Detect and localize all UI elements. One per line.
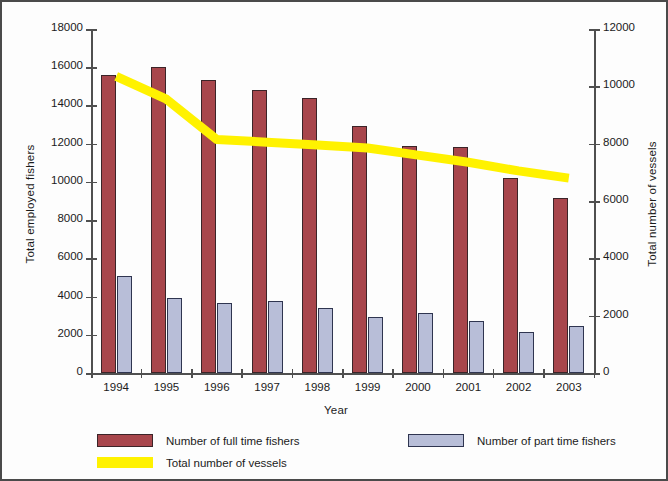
x-axis-line (91, 373, 596, 375)
part-time-swatch (408, 434, 464, 447)
y-axis-left-tick-label: 14000 (15, 97, 83, 109)
y-axis-right-tick-label: 12000 (603, 21, 663, 33)
bar-part-time (569, 326, 584, 373)
x-axis-tick (342, 369, 344, 378)
y-axis-left-tick (86, 29, 97, 31)
x-axis-tick (594, 369, 596, 378)
bar-full-time (252, 90, 267, 373)
plot-area: Total employed fishers Total number of v… (2, 2, 668, 481)
y-axis-right-tick-label: 6000 (603, 193, 663, 205)
y-axis-left-tick-label: 12000 (15, 136, 83, 148)
legend-item-label: Total number of vessels (166, 457, 287, 469)
vessels-swatch (97, 457, 153, 468)
x-axis-tick (292, 369, 294, 378)
y-axis-right-tick-label: 8000 (603, 136, 663, 148)
x-axis-tick (191, 369, 193, 378)
y-axis-right-tick (589, 144, 600, 146)
y-axis-left-tick (86, 297, 97, 299)
y-axis-left-tick-label: 0 (15, 365, 83, 377)
y-axis-right-tick-label: 2000 (603, 308, 663, 320)
y-axis-left-tick-label: 4000 (15, 289, 83, 301)
bar-full-time (553, 198, 568, 373)
bar-part-time (469, 321, 484, 373)
y-axis-left-tick-label: 10000 (15, 174, 83, 186)
legend-item-label: Number of full time fishers (166, 435, 300, 447)
y-axis-right-tick (589, 201, 600, 203)
bar-part-time (268, 301, 283, 373)
bar-full-time (302, 98, 317, 373)
y-axis-left-tick-label: 2000 (15, 327, 83, 339)
y-axis-left-tick (86, 182, 97, 184)
bar-part-time (318, 308, 333, 373)
y-axis-left-tick (86, 258, 97, 260)
x-axis-title: Year (2, 404, 668, 416)
bar-part-time (519, 332, 534, 373)
y-axis-left-tick-label: 16000 (15, 59, 83, 71)
y-axis-right-tick (589, 86, 600, 88)
x-axis-tick (543, 369, 545, 378)
y-axis-right-tick-label: 4000 (603, 250, 663, 262)
bar-full-time (453, 147, 468, 373)
bar-full-time (352, 126, 367, 373)
y-axis-right-tick (589, 29, 600, 31)
bar-part-time (167, 298, 182, 373)
full-time-swatch (97, 434, 153, 447)
bar-part-time (217, 303, 232, 373)
bar-full-time (201, 80, 216, 373)
y-axis-left-line (91, 29, 93, 374)
chart-figure: Total employed fishers Total number of v… (0, 0, 668, 481)
bar-full-time (101, 75, 116, 373)
x-axis-tick (91, 369, 93, 378)
legend-item: Total number of vessels (97, 456, 287, 469)
y-axis-left-tick (86, 220, 97, 222)
y-axis-left-tick-label: 6000 (15, 250, 83, 262)
bar-full-time (503, 178, 518, 373)
x-axis-tick (392, 369, 394, 378)
bar-full-time (402, 146, 417, 373)
legend-item-label: Number of part time fishers (477, 435, 616, 447)
y-axis-right-tick (589, 316, 600, 318)
y-axis-left-tick-label: 18000 (15, 21, 83, 33)
bar-part-time (418, 313, 433, 373)
y-axis-right-tick (589, 258, 600, 260)
bar-full-time (151, 67, 166, 373)
y-axis-left-tick (86, 67, 97, 69)
y-axis-left-tick (86, 144, 97, 146)
x-axis-tick (241, 369, 243, 378)
bar-part-time (117, 276, 132, 373)
x-axis-tick (443, 369, 445, 378)
legend-item: Number of full time fishers (97, 434, 300, 447)
legend-item: Number of part time fishers (408, 434, 616, 447)
x-axis-tick-label: 2003 (539, 381, 599, 393)
bar-part-time (368, 317, 383, 373)
x-axis-tick (493, 369, 495, 378)
x-axis-tick (141, 369, 143, 378)
y-axis-left-tick (86, 105, 97, 107)
y-axis-left-tick-label: 8000 (15, 212, 83, 224)
y-axis-right-tick-label: 10000 (603, 78, 663, 90)
y-axis-left-tick (86, 335, 97, 337)
y-axis-right-tick-label: 0 (603, 365, 663, 377)
